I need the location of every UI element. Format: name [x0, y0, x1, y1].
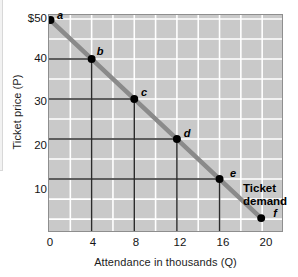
y-tick-label-50: $50	[3, 12, 47, 24]
demand-curve-label: Ticket demand	[243, 182, 298, 208]
x-tick-label-12: 12	[160, 236, 200, 248]
point-label-c: c	[141, 86, 147, 98]
data-point-d	[173, 135, 181, 143]
x-tick-label-0: 0	[30, 236, 70, 248]
y-tick-label-10: 10	[3, 183, 47, 195]
demand-curve-figure: Ticket price (P) Attendance in thousands…	[0, 0, 298, 277]
point-label-d: d	[184, 127, 191, 139]
y-tick-label-30: 30	[3, 95, 47, 107]
x-tick-label-16: 16	[203, 236, 243, 248]
data-point-f	[257, 214, 265, 222]
point-label-e: e	[230, 167, 236, 179]
point-label-b: b	[97, 45, 104, 57]
data-point-b	[88, 55, 96, 63]
x-axis-title: Attendance in thousands (Q)	[48, 256, 283, 268]
data-point-c	[130, 95, 138, 103]
point-label-f: f	[273, 207, 277, 219]
x-tick-label-4: 4	[73, 236, 113, 248]
x-tick-label-20: 20	[246, 236, 286, 248]
y-tick-label-20: 20	[3, 139, 47, 151]
x-tick-label-8: 8	[116, 236, 156, 248]
demand-curve-label-line2: demand	[243, 195, 298, 208]
data-point-e	[216, 175, 224, 183]
y-tick-label-40: 40	[3, 52, 47, 64]
demand-curve-label-line1: Ticket	[243, 182, 298, 195]
point-label-a: a	[57, 9, 63, 21]
